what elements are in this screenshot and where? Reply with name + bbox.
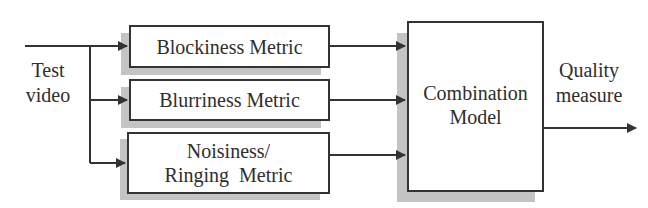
noisiness-metric-label-line1: Noisiness/ — [187, 139, 270, 163]
combination-model-label-line2: Model — [449, 105, 501, 129]
output-label-line2: measure — [547, 83, 631, 108]
combination-model-label-line1: Combination — [423, 81, 527, 105]
blockiness-metric-box: Blockiness Metric — [129, 25, 330, 68]
blurriness-metric-label: Blurriness Metric — [159, 88, 300, 112]
input-label: Test video — [18, 58, 78, 108]
combination-model-box: Combination Model — [407, 21, 544, 192]
blockiness-metric-label: Blockiness Metric — [156, 35, 302, 59]
input-label-line1: Test — [18, 58, 78, 83]
blurriness-metric-box: Blurriness Metric — [129, 79, 330, 121]
noisiness-ringing-metric-box: Noisiness/ Ringing Metric — [127, 132, 330, 194]
input-label-line2: video — [18, 83, 78, 108]
output-label-line1: Quality — [547, 58, 631, 83]
output-label: Quality measure — [547, 58, 631, 108]
noisiness-metric-label-line2: Ringing Metric — [165, 163, 293, 187]
